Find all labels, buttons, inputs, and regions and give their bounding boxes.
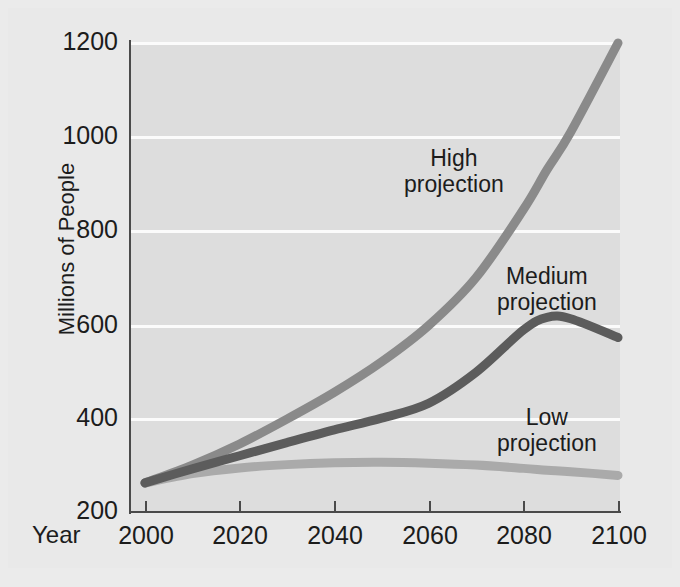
annotation-low-projection: Low projection (497, 405, 597, 457)
annotation-low-line1: Low (497, 405, 597, 431)
annotation-high-line1: High (404, 146, 504, 172)
annotation-high-projection: High projection (404, 146, 504, 198)
figure-canvas: 1200 1000 800 600 400 200 2000 2020 2040… (0, 0, 680, 587)
annotation-high-line2: projection (404, 172, 504, 198)
annotation-medium-projection: Medium projection (497, 264, 597, 316)
annotation-low-line2: projection (497, 431, 597, 457)
annotation-medium-line1: Medium (497, 264, 597, 290)
annotation-medium-line2: projection (497, 290, 597, 316)
